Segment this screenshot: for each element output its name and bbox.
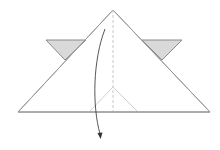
- arrow-head-icon: [98, 133, 103, 140]
- diagram-svg: [0, 0, 220, 150]
- origami-diagram: [0, 0, 220, 150]
- main-triangle: [18, 10, 210, 112]
